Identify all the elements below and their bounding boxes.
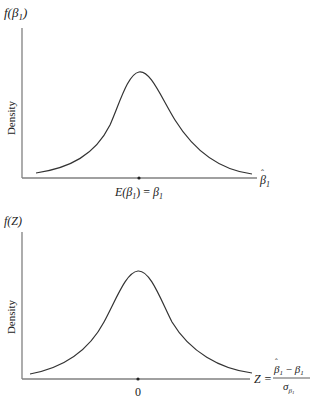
bottom-y-axis-title: f(Z) (4, 214, 22, 228)
top-y-axis-label: Density (5, 100, 17, 135)
bottom-chart: f(Z) Density 0 Z = β1 − β1 ˆ σβ1 (4, 214, 310, 399)
top-center-tick (137, 176, 140, 179)
z-equals: Z = (254, 372, 272, 386)
bottom-center-tick (136, 377, 139, 380)
top-density-curve (36, 72, 252, 174)
bottom-x-axis-label: Z = β1 − β1 ˆ σβ1 (254, 358, 310, 395)
z-num-hat-mark: ˆ (275, 358, 278, 367)
top-tick-label: E(β1) = β1 (114, 185, 163, 201)
bottom-density-curve (30, 271, 252, 374)
top-chart: f(β1) ˆ Density E(β1) = β1 β1 ˆ (4, 0, 270, 201)
bottom-tick-label: 0 (135, 385, 141, 399)
chart-canvas: f(β1) ˆ Density E(β1) = β1 β1 ˆ f(Z) Den… (0, 0, 311, 404)
top-y-axis-title: f(β1) (4, 5, 27, 22)
bottom-y-axis-label: Density (5, 299, 17, 334)
top-x-hat-mark: ˆ (261, 168, 264, 178)
z-denominator: σβ1 (283, 380, 294, 395)
